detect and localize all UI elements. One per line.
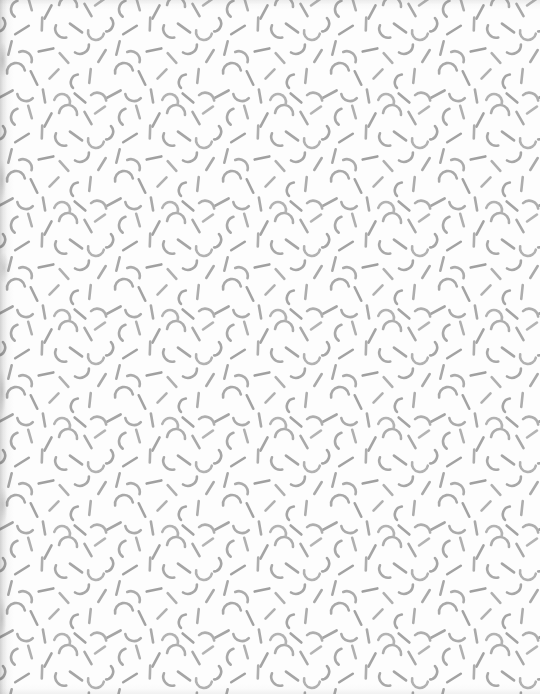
pattern-surface — [0, 0, 540, 694]
confetti-pattern-layer — [0, 0, 540, 694]
pattern-fill-rect — [0, 0, 540, 694]
